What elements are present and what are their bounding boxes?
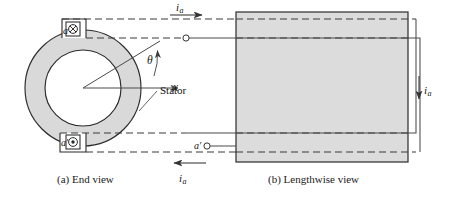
coil-a-into-page: [66, 22, 80, 36]
current-subscript-top: a: [179, 6, 184, 15]
stator-core: [20, 19, 146, 152]
coil-label-a-prime: a′: [61, 137, 68, 148]
current-label-bottom: ia: [179, 172, 187, 186]
terminal-label-a-prime: a′: [194, 140, 201, 151]
stator-winding-figure: [0, 0, 456, 197]
core-body: [236, 12, 408, 162]
caption-lengthwise-view: (b) Lengthwise view: [268, 173, 359, 185]
theta-angle-label: θ: [147, 54, 153, 66]
terminal-a: [183, 35, 189, 41]
current-subscript-bottom: a: [182, 177, 187, 186]
coil-label-a: a: [63, 25, 68, 36]
terminal-a-prime: [204, 143, 210, 149]
caption-end-view: (a) End view: [57, 173, 114, 185]
x-axis-label: x: [173, 81, 178, 93]
lengthwise-view-panel: [186, 12, 420, 162]
current-subscript-right: a: [427, 89, 432, 98]
current-label-top: ia: [176, 1, 184, 15]
current-label-right: ia: [424, 84, 432, 98]
terminals-and-leads: [183, 35, 236, 149]
end-view-panel: [20, 19, 178, 152]
